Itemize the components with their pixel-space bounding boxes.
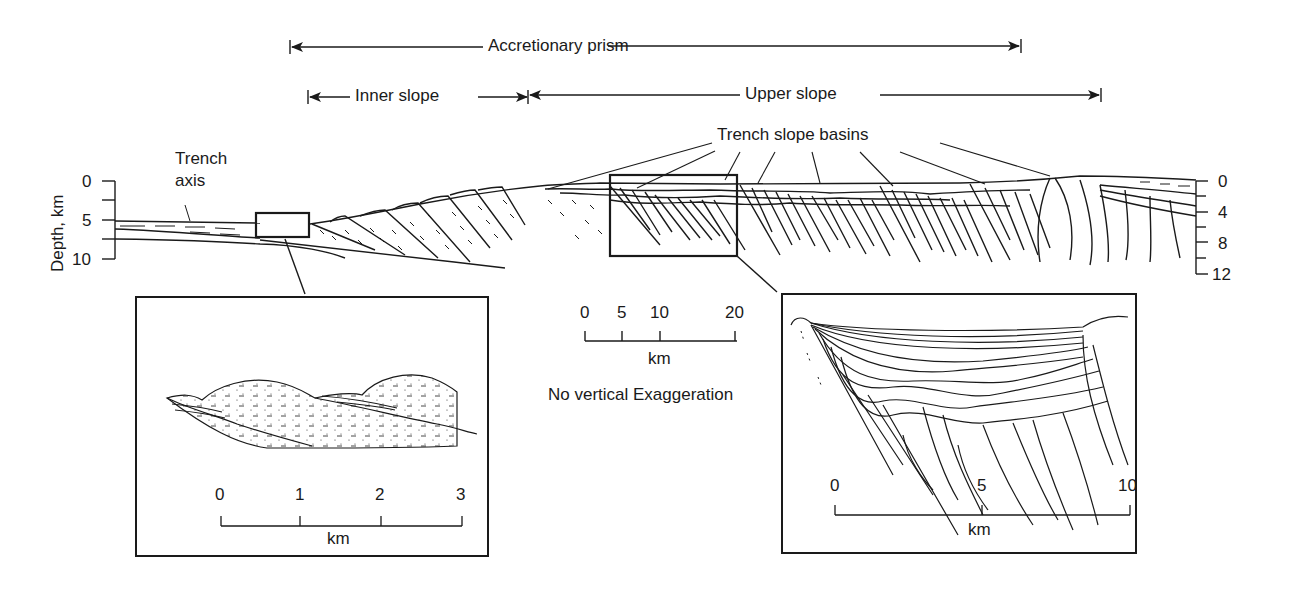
inset-right-unit: km xyxy=(968,521,991,538)
basin-detail-leader xyxy=(737,256,777,292)
basin-detail-inset: 0 5 10 km xyxy=(781,293,1137,554)
trench-slope-basins-label: Trench slope basins xyxy=(717,126,869,143)
inset-left-tick-3: 3 xyxy=(456,486,465,503)
scale-tick-20: 20 xyxy=(725,304,744,321)
left-depth-tick-0: 0 xyxy=(82,173,91,190)
inset-left-tick-2: 2 xyxy=(375,486,384,503)
main-scale-bar xyxy=(585,331,737,341)
upper-slope-label: Upper slope xyxy=(745,85,837,102)
no-vertical-exaggeration-note: No vertical Exaggeration xyxy=(548,386,733,403)
inset-left-unit: km xyxy=(327,530,350,547)
inset-right-tick-5: 5 xyxy=(977,477,986,494)
inset-left-tick-1: 1 xyxy=(295,486,304,503)
right-depth-tick-12: 12 xyxy=(1212,266,1231,283)
inset-right-tick-10: 10 xyxy=(1118,477,1137,494)
inner-slope-thrusts xyxy=(310,186,540,262)
upper-slope-section xyxy=(540,176,1196,265)
basin-detail-box xyxy=(610,175,737,256)
scale-unit: km xyxy=(648,350,671,367)
right-depth-tick-0: 0 xyxy=(1218,173,1227,190)
scale-tick-5: 5 xyxy=(617,304,626,321)
scale-tick-0: 0 xyxy=(580,304,589,321)
accretionary-prism-span xyxy=(290,39,1021,54)
trench-axis-label-line1: Trench xyxy=(175,150,227,167)
inset-right-tick-0: 0 xyxy=(830,477,839,494)
inset-right-scale-bar xyxy=(835,505,1130,515)
scale-tick-10: 10 xyxy=(650,304,669,321)
right-depth-axis xyxy=(1196,181,1208,274)
inset-left-scale-bar xyxy=(221,516,462,526)
inset-left-tick-0: 0 xyxy=(215,486,224,503)
inner-slope-label: Inner slope xyxy=(355,87,439,104)
depth-axis-title: Depth, km xyxy=(48,195,68,272)
right-depth-tick-8: 8 xyxy=(1218,235,1227,252)
accretionary-prism-label: Accretionary prism xyxy=(488,37,629,54)
right-depth-tick-4: 4 xyxy=(1218,204,1227,221)
left-depth-axis xyxy=(102,181,115,259)
left-depth-tick-5: 5 xyxy=(82,212,91,229)
trench-detail-inset: 0 1 2 3 km xyxy=(135,296,489,557)
left-depth-tick-10: 10 xyxy=(72,251,91,268)
trench-detail-box xyxy=(256,213,309,237)
trench-axis-label-line2: axis xyxy=(175,172,205,189)
